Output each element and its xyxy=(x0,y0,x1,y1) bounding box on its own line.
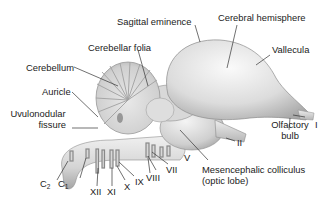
label-nerve-XII: XII xyxy=(90,186,101,197)
label-cerebellum: Cerebellum xyxy=(26,62,74,73)
label-vallecula: Vallecula xyxy=(272,44,309,55)
label-sagittal-eminence: Sagittal eminence xyxy=(117,16,192,27)
label-nerve-VII: VII xyxy=(166,164,177,175)
label-mesencephalic-colliculus: Mesencephalic colliculus (optic lobe) xyxy=(202,164,305,186)
label-uvulonodular-fissure: Uvulonodular fissure xyxy=(8,108,68,130)
label-olfactory-bulb: Olfactory bulb xyxy=(267,119,313,141)
brain-diagram: Sagittal eminence Cerebral hemisphere Ce… xyxy=(0,0,323,209)
label-nerve-IX: IX xyxy=(135,176,144,187)
label-nerve-VIII: VIII xyxy=(146,172,160,183)
label-nerve-I: I xyxy=(315,119,318,130)
cerebellum xyxy=(96,62,160,134)
label-cerebellar-folia: Cerebellar folia xyxy=(88,42,151,53)
label-nerve-II: II xyxy=(237,137,242,148)
label-nerve-X: X xyxy=(124,181,130,192)
label-c2: C2 xyxy=(40,178,50,192)
label-cerebral-hemisphere: Cerebral hemisphere xyxy=(218,12,306,23)
label-nerve-XI: XI xyxy=(107,186,116,197)
label-c1: C1 xyxy=(58,178,68,192)
label-auricle: Auricle xyxy=(42,86,71,97)
label-nerve-V: V xyxy=(184,152,190,163)
